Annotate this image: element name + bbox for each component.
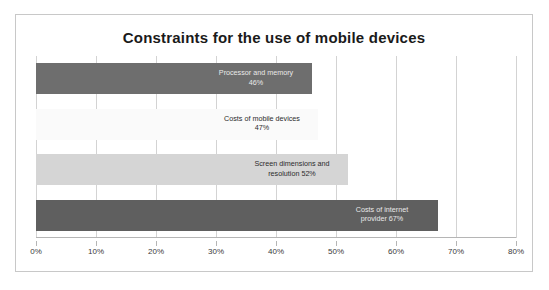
bar-label-line1-1: Processor and memory xyxy=(204,68,308,78)
gridline-80 xyxy=(516,56,517,238)
bar-label-line2-2: 47% xyxy=(210,123,314,133)
x-tick-mark-70 xyxy=(456,241,457,246)
x-tick-label-20: 20% xyxy=(148,247,164,256)
x-tick-label-50: 50% xyxy=(328,247,344,256)
bar-label-line2-3: resolution 52% xyxy=(240,169,344,179)
bar-label-line2-4: provider 67% xyxy=(330,214,434,224)
bar-label-line1-3: Screen dimensions and xyxy=(240,159,344,169)
bar-label-3: Screen dimensions andresolution 52% xyxy=(240,159,344,178)
x-tick-label-40: 40% xyxy=(268,247,284,256)
x-tick-label-0: 0% xyxy=(30,247,42,256)
x-tick-mark-80 xyxy=(516,241,517,246)
x-axis-tick-labels: 0%10%20%30%40%50%60%70%80% xyxy=(36,247,516,263)
x-tick-mark-30 xyxy=(216,241,217,246)
bar-label-line1-2: Costs of mobile devices xyxy=(210,114,314,124)
chart-frame: Constraints for the use of mobile device… xyxy=(15,14,533,272)
x-tick-mark-10 xyxy=(96,241,97,246)
plot-area: Processor and memory46%Costs of mobile d… xyxy=(36,56,516,238)
bar-label-1: Processor and memory46% xyxy=(204,68,308,87)
bar-label-4: Costs of internetprovider 67% xyxy=(330,205,434,224)
chart-title: Constraints for the use of mobile device… xyxy=(16,29,532,46)
bar-label-line1-4: Costs of internet xyxy=(330,205,434,215)
bar-label-line2-1: 46% xyxy=(204,78,308,88)
x-tick-mark-0 xyxy=(36,241,37,246)
x-tick-mark-60 xyxy=(396,241,397,246)
x-tick-mark-50 xyxy=(336,241,337,246)
bar-label-2: Costs of mobile devices47% xyxy=(210,114,314,133)
x-tick-label-60: 60% xyxy=(388,247,404,256)
x-axis-line xyxy=(36,237,516,238)
x-tick-mark-40 xyxy=(276,241,277,246)
x-tick-mark-20 xyxy=(156,241,157,246)
x-tick-label-30: 30% xyxy=(208,247,224,256)
gridline-70 xyxy=(456,56,457,238)
x-tick-label-10: 10% xyxy=(88,247,104,256)
x-tick-label-80: 80% xyxy=(508,247,524,256)
x-tick-label-70: 70% xyxy=(448,247,464,256)
